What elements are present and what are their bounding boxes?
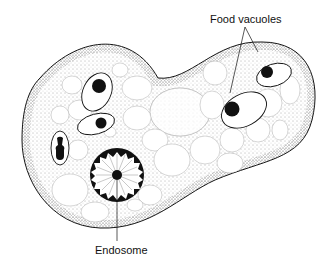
food-vacuoles-label: Food vacuoles bbox=[210, 13, 282, 25]
amoeba-diagram bbox=[0, 0, 332, 264]
endosome-dot bbox=[112, 170, 122, 180]
food-vacuole bbox=[51, 131, 69, 165]
endosome-label: Endosome bbox=[95, 244, 148, 256]
